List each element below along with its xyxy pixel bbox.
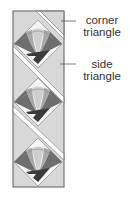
label-corner-line2: triangle <box>76 26 128 38</box>
label-side-triangle: side triangle <box>76 58 128 82</box>
label-corner-triangle: corner triangle <box>76 14 128 38</box>
label-corner-line1: corner <box>76 14 128 26</box>
label-side-line1: side <box>76 58 128 70</box>
label-side-line2: triangle <box>76 70 128 82</box>
